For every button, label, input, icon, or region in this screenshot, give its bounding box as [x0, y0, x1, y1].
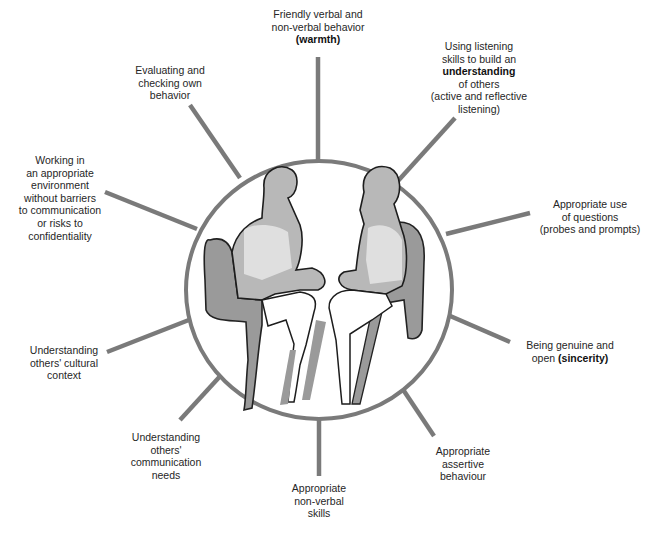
spoke-cultural [107, 318, 194, 352]
node-questions: Appropriate use of questions (probes and… [528, 198, 652, 236]
label-line: Working in [10, 154, 110, 167]
label-line: without barriers [10, 192, 110, 205]
node-sincerity: Being genuine and open (sincerity) [510, 339, 630, 364]
label-line: skills to build an [414, 53, 544, 66]
label-line: non-verbal behavior [252, 21, 384, 34]
spoke-questions [446, 213, 530, 234]
node-warmth: Friendly verbal and non-verbal behavior … [252, 8, 384, 46]
right-torso-light [366, 225, 402, 284]
label-line: of questions [528, 211, 652, 224]
label-line: needs [116, 469, 216, 482]
label-line: communication [116, 456, 216, 469]
label-line: environment [10, 179, 110, 192]
node-cultural: Understanding others' cultural context [14, 344, 114, 382]
spoke-evaluating [190, 105, 240, 178]
label-line: Understanding [14, 344, 114, 357]
node-understanding: Using listening skills to build an under… [414, 40, 544, 116]
label-line: of others [414, 78, 544, 91]
label-line: Using listening [414, 40, 544, 53]
label-emphasis: (warmth) [296, 33, 340, 45]
label-emphasis: understanding [443, 65, 516, 77]
label-line: an appropriate [10, 167, 110, 180]
spoke-environment [105, 192, 197, 229]
label-line: Understanding [116, 431, 216, 444]
label-line: skills [274, 507, 364, 520]
label-line: checking own [118, 77, 222, 90]
label-emphasis: (sincerity) [558, 352, 608, 364]
label-line: to communication [10, 204, 110, 217]
label-line: behavior [118, 89, 222, 102]
label-line: assertive [418, 458, 508, 471]
label-line: listening) [414, 103, 544, 116]
node-communication-needs: Understanding others' communication need… [116, 431, 216, 481]
label-line: Appropriate [274, 482, 364, 495]
label-line: or risks to [10, 217, 110, 230]
label-line: Friendly verbal and [252, 8, 384, 21]
label-line: Evaluating and [118, 64, 222, 77]
node-nonverbal: Appropriate non-verbal skills [274, 482, 364, 520]
label-line: others' [116, 444, 216, 457]
label-line: context [14, 369, 114, 382]
node-assertive: Appropriate assertive behaviour [418, 445, 508, 483]
label-line: Appropriate [418, 445, 508, 458]
node-evaluating: Evaluating and checking own behavior [118, 64, 222, 102]
label-line: open [532, 352, 558, 364]
spoke-sincerity [441, 312, 510, 342]
label-line: (probes and prompts) [528, 223, 652, 236]
hub-diagram [0, 0, 653, 542]
label-line: Being genuine and [510, 339, 630, 352]
label-line: non-verbal [274, 495, 364, 508]
label-line: confidentiality [10, 230, 110, 243]
label-line: others' cultural [14, 357, 114, 370]
label-line: behaviour [418, 470, 508, 483]
label-line: (active and reflective [414, 90, 544, 103]
node-environment: Working in an appropriate environment wi… [10, 154, 110, 242]
label-line: Appropriate use [528, 198, 652, 211]
spoke-understanding [397, 118, 455, 182]
